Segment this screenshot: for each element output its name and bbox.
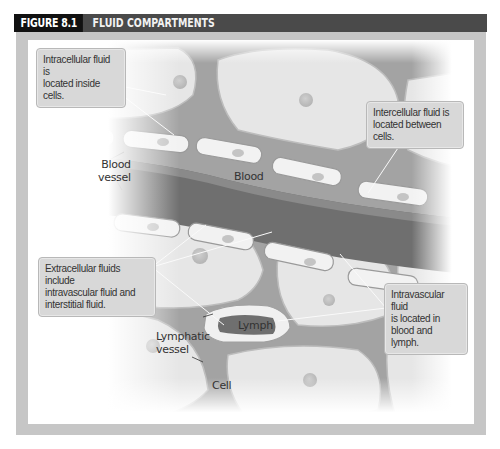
callout-line: Intracellular fluid is [43,54,119,78]
callout-intravascular: Intravascular fluid is located in blood … [384,283,468,355]
figure-header: FIGURE 8.1 FLUID COMPARTMENTS [14,14,487,32]
callout-intercellular: Intercellular fluid is located between c… [366,101,464,149]
callout-line: is located in [391,313,461,325]
callout-line: Intravascular fluid [391,289,461,313]
diagram-panel: Intracellular fluid is located inside ce… [28,40,474,424]
label-line: Blood [98,158,131,171]
label-lymphatic-vessel: Lymphatic vessel [156,330,210,356]
label-line: Lymphatic [156,330,210,343]
label-lymph: Lymph [238,319,273,332]
callout-intracellular: Intracellular fluid is located inside ce… [36,48,126,108]
callout-line: located between cells. [373,119,457,143]
label-line: vessel [156,343,210,356]
callout-line: Intercellular fluid is [373,107,457,119]
label-blood: Blood [234,170,264,183]
callout-line: intravascular fluid and [45,287,149,299]
figure-number: FIGURE 8.1 [14,14,83,32]
label-cell: Cell [212,379,231,392]
label-line: vessel [98,171,131,184]
callout-line: Extracellular fluids include [45,263,149,287]
label-blood-vessel: Blood vessel [98,158,131,184]
figure-title: FLUID COMPARTMENTS [86,16,215,30]
callout-extracellular: Extracellular fluids include intravascul… [38,257,156,317]
callout-line: interstitial fluid. [45,299,149,311]
callout-line: located inside cells. [43,78,119,102]
callout-line: blood and lymph. [391,325,461,349]
